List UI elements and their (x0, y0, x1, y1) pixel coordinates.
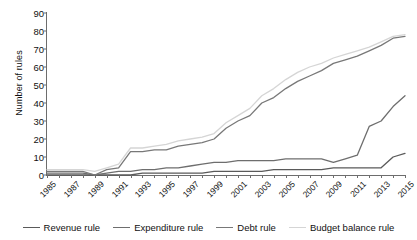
y-tick-label: 60 (33, 62, 44, 73)
x-tick-label: 2013 (372, 179, 392, 199)
legend-label: Debt rule (237, 222, 276, 233)
legend-label: Budget balance rule (310, 222, 395, 233)
x-tick-label: 2007 (300, 179, 320, 199)
x-tick-label: 2005 (276, 179, 296, 199)
x-tick-label: 1989 (85, 179, 105, 199)
x-tick-mark (262, 175, 263, 178)
legend-item[interactable]: Debt rule (216, 222, 276, 233)
x-tick-mark (393, 175, 394, 178)
y-axis-title: Number of rules (14, 28, 24, 138)
x-tick-mark (71, 175, 72, 178)
x-tick-mark (226, 175, 227, 178)
x-tick-mark (142, 175, 143, 178)
x-tick-mark (357, 175, 358, 178)
x-tick-label: 2015 (396, 179, 416, 199)
x-tick-mark (345, 175, 346, 178)
x-tick-mark (202, 175, 203, 178)
x-tick-mark (178, 175, 179, 178)
line-chart: Number of rules 0102030405060708090 1985… (0, 0, 417, 240)
x-tick-mark (286, 175, 287, 178)
series-lines (47, 13, 405, 175)
y-tick-label: 40 (33, 98, 44, 109)
series-line (47, 35, 405, 172)
x-tick-mark (95, 175, 96, 178)
x-tick-label: 2011 (348, 179, 368, 199)
legend-item[interactable]: Expenditure rule (113, 222, 203, 233)
x-tick-mark (166, 175, 167, 178)
legend-item[interactable]: Revenue rule (23, 222, 101, 233)
plot-area: 0102030405060708090 (47, 13, 405, 175)
x-tick-mark (214, 175, 215, 178)
y-tick-label: 10 (33, 152, 44, 163)
y-tick-label: 80 (33, 26, 44, 37)
legend-swatch (113, 227, 130, 228)
x-tick-mark (190, 175, 191, 178)
x-tick-label: 1997 (181, 179, 201, 199)
y-tick-label: 20 (33, 134, 44, 145)
x-tick-label: 1993 (133, 179, 153, 199)
x-tick-mark (250, 175, 251, 178)
x-tick-mark (381, 175, 382, 178)
x-tick-mark (333, 175, 334, 178)
series-line (47, 96, 405, 175)
x-tick-label: 1991 (109, 179, 129, 199)
legend-swatch (216, 227, 233, 228)
y-tick-label: 30 (33, 116, 44, 127)
x-tick-mark (47, 175, 48, 178)
x-tick-mark (321, 175, 322, 178)
y-tick-label: 70 (33, 44, 44, 55)
chart-legend: Revenue ruleExpenditure ruleDebt ruleBud… (0, 216, 417, 238)
legend-label: Expenditure rule (134, 222, 203, 233)
legend-item[interactable]: Budget balance rule (289, 222, 395, 233)
legend-swatch (23, 227, 40, 228)
x-tick-mark (274, 175, 275, 178)
y-tick-label: 50 (33, 80, 44, 91)
x-tick-mark (131, 175, 132, 178)
x-tick-mark (154, 175, 155, 178)
legend-label: Revenue rule (44, 222, 101, 233)
x-tick-mark (310, 175, 311, 178)
x-tick-mark (119, 175, 120, 178)
x-tick-mark (298, 175, 299, 178)
series-line (47, 36, 405, 175)
x-tick-mark (107, 175, 108, 178)
y-tick-label: 90 (33, 8, 44, 19)
x-tick-label: 1995 (157, 179, 177, 199)
x-tick-label: 2001 (229, 179, 249, 199)
legend-swatch (289, 227, 306, 228)
x-tick-label: 1985 (38, 179, 58, 199)
x-tick-label: 2009 (324, 179, 344, 199)
x-tick-mark (369, 175, 370, 178)
x-tick-label: 1999 (205, 179, 225, 199)
x-tick-mark (238, 175, 239, 178)
x-tick-mark (83, 175, 84, 178)
x-tick-mark (59, 175, 60, 178)
x-tick-mark (405, 175, 406, 178)
x-tick-label: 2003 (252, 179, 272, 199)
x-tick-label: 1987 (61, 179, 81, 199)
